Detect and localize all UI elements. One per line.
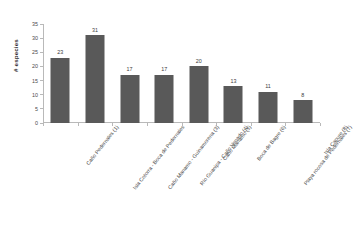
y-tick-label: 30 <box>32 34 38 42</box>
bar-slot: 17 <box>112 24 147 123</box>
y-tick-label: 25 <box>32 48 38 56</box>
bar-slot: 13 <box>216 24 251 123</box>
y-tick: 10 <box>21 91 43 99</box>
y-tick-label: 0 <box>35 119 38 127</box>
y-tick-label: 20 <box>32 62 38 70</box>
bar-value-label: 17 <box>127 66 133 73</box>
plot-area: 05101520253035 233117172013118 <box>43 24 320 123</box>
y-tick-label: 10 <box>32 91 38 99</box>
bar[interactable] <box>293 100 312 123</box>
bar[interactable] <box>85 35 104 123</box>
y-tick: 35 <box>21 20 43 28</box>
x-category-label: Caño Pedernales (1) <box>85 124 121 167</box>
y-tick: 0 <box>21 119 43 127</box>
bar-value-label: 23 <box>57 49 63 56</box>
y-tick-label: 5 <box>35 105 38 113</box>
x-category-label: Boca de Bagre (6) <box>256 124 288 162</box>
bar-slot: 11 <box>251 24 286 123</box>
bar[interactable] <box>259 92 278 123</box>
x-tick-mark <box>320 123 321 126</box>
bar-slot: 8 <box>285 24 320 123</box>
bar-value-label: 17 <box>161 66 167 73</box>
y-tick: 5 <box>21 105 43 113</box>
y-tick-label: 15 <box>32 77 38 85</box>
bar[interactable] <box>155 75 174 123</box>
x-axis-category-labels: Caño Pedernales (1)Isla Cotorra - Boca d… <box>43 124 320 237</box>
y-tick: 25 <box>21 48 43 56</box>
y-tick: 15 <box>21 77 43 85</box>
bar-value-label: 31 <box>92 27 98 34</box>
y-tick: 30 <box>21 34 43 42</box>
bar-slot: 31 <box>78 24 113 123</box>
bar[interactable] <box>51 58 70 123</box>
bar-slot: 23 <box>43 24 78 123</box>
y-tick-label: 35 <box>32 20 38 28</box>
y-axis-title: # especies <box>12 26 19 86</box>
bar-value-label: 13 <box>230 78 236 85</box>
bar-value-label: 11 <box>265 83 271 90</box>
bar-value-label: 20 <box>196 58 202 65</box>
bar-slot: 20 <box>182 24 217 123</box>
y-tick: 20 <box>21 62 43 70</box>
bar[interactable] <box>224 86 243 123</box>
bar[interactable] <box>120 75 139 123</box>
bar[interactable] <box>189 66 208 123</box>
bar-slot: 17 <box>147 24 182 123</box>
bar-value-label: 8 <box>301 92 304 99</box>
x-category-label: Caño Manamo (5) <box>221 124 253 162</box>
